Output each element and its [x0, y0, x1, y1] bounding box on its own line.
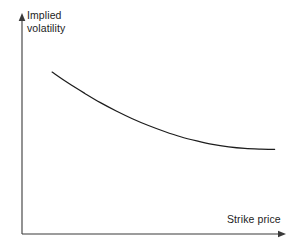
chart-canvas: [0, 0, 297, 247]
x-axis-arrow: [22, 231, 286, 238]
x-axis-label: Strike price: [227, 213, 281, 226]
y-axis-label-line-2: volatility: [27, 22, 65, 35]
y-axis-label-line-1: Implied: [27, 9, 65, 22]
y-axis-arrow: [19, 13, 26, 234]
y-axis-label: Implied volatility: [27, 9, 65, 35]
volatility-skew-figure: Implied volatility Strike price: [0, 0, 297, 247]
implied-volatility-curve: [52, 72, 275, 149]
